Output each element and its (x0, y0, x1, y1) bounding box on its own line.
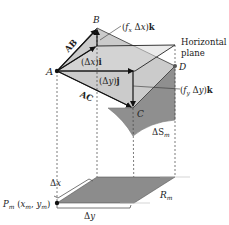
label-a: A (45, 66, 53, 77)
label-fx-k: (fx Δx)k (122, 22, 156, 33)
point-a (55, 69, 59, 73)
label-ac: AC (78, 89, 95, 104)
label-p: Pm (xm, ym) (2, 199, 50, 210)
label-region: Rm (159, 190, 173, 201)
point-d (173, 64, 177, 68)
label-fy-k: (fy Δy)k (180, 85, 214, 97)
label-b: B (92, 15, 100, 25)
label-delta-x: Δx (50, 178, 61, 188)
region-rm (57, 177, 175, 203)
label-dy-j: (Δy)j (99, 76, 120, 86)
tangent-plane-diagram: A B C D AB AC (Δx)i (Δy)j (fx Δx)k (fy Δ… (0, 0, 229, 225)
label-horizontal-plane-2: plane (181, 48, 205, 58)
label-d: D (178, 62, 186, 72)
label-c: C (137, 109, 144, 119)
point-p (55, 201, 59, 205)
label-horizontal-plane-1: Horizontal (181, 37, 227, 47)
label-delta-y: Δy (84, 211, 95, 221)
label-surface-patch: ΔSm (152, 127, 170, 138)
label-dx-i: (Δx)i (81, 57, 103, 67)
brace-dy (57, 205, 131, 208)
